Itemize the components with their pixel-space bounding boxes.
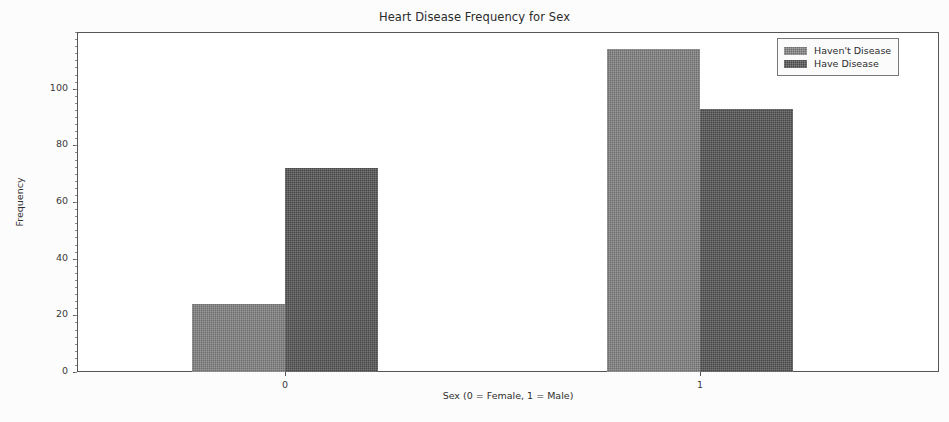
legend-swatch-havent-disease <box>784 47 807 55</box>
y-minor-tick <box>75 266 77 267</box>
y-minor-tick <box>75 245 77 246</box>
bar <box>192 304 285 372</box>
y-minor-tick <box>75 117 77 118</box>
y-minor-tick <box>75 209 77 210</box>
y-minor-tick <box>75 138 77 139</box>
y-minor-tick <box>75 358 77 359</box>
x-tick-mark <box>700 372 701 376</box>
y-minor-tick <box>75 315 77 316</box>
matplotlib-figure: Heart Disease Frequency for Sex 02040608… <box>0 0 949 422</box>
y-minor-tick <box>75 82 77 83</box>
y-minor-tick <box>75 337 77 338</box>
y-minor-tick <box>75 372 77 373</box>
x-axis-label: Sex (0 = Female, 1 = Male) <box>77 390 939 401</box>
y-minor-tick <box>75 202 77 203</box>
legend-item: Have Disease <box>784 57 891 70</box>
y-minor-tick <box>75 280 77 281</box>
y-minor-tick <box>75 145 77 146</box>
y-minor-tick <box>75 167 77 168</box>
legend-label-havent-disease: Haven't Disease <box>814 45 891 56</box>
y-minor-tick <box>75 216 77 217</box>
legend-label-have-disease: Have Disease <box>814 58 879 69</box>
y-minor-tick <box>75 273 77 274</box>
y-minor-tick <box>75 160 77 161</box>
y-tick-label: 0 <box>62 365 68 376</box>
y-tick-label: 40 <box>56 252 68 263</box>
y-minor-tick <box>75 131 77 132</box>
legend-item: Haven't Disease <box>784 44 891 57</box>
y-tick-label: 100 <box>50 82 68 93</box>
screenshot-root: Heart Disease Frequency for Sex 02040608… <box>0 0 949 422</box>
legend-swatch-have-disease <box>784 60 807 68</box>
x-tick-mark <box>285 372 286 376</box>
y-minor-tick <box>75 32 77 33</box>
y-minor-tick <box>75 294 77 295</box>
y-minor-tick <box>75 308 77 309</box>
x-tick-label: 0 <box>265 379 305 390</box>
y-minor-tick <box>75 330 77 331</box>
y-minor-tick <box>75 110 77 111</box>
y-minor-tick <box>75 301 77 302</box>
y-minor-tick <box>75 287 77 288</box>
y-minor-tick <box>75 188 77 189</box>
y-tick-label: 60 <box>56 195 68 206</box>
y-minor-tick <box>75 75 77 76</box>
y-minor-tick <box>75 237 77 238</box>
chart-legend: Haven't Disease Have Disease <box>777 38 899 76</box>
y-minor-tick <box>75 252 77 253</box>
y-minor-tick <box>75 181 77 182</box>
y-minor-tick <box>75 89 77 90</box>
y-minor-tick <box>75 39 77 40</box>
y-minor-tick <box>75 223 77 224</box>
y-minor-tick <box>75 60 77 61</box>
y-minor-tick <box>75 322 77 323</box>
chart-title: Heart Disease Frequency for Sex <box>0 10 949 24</box>
y-minor-tick <box>75 96 77 97</box>
x-tick-label: 1 <box>680 379 720 390</box>
y-minor-tick <box>75 53 77 54</box>
y-minor-tick <box>75 46 77 47</box>
y-minor-tick <box>75 195 77 196</box>
y-tick-label: 80 <box>56 138 68 149</box>
y-tick-label: 20 <box>56 308 68 319</box>
bar <box>700 109 793 373</box>
y-axis-label: Frequency <box>14 32 28 372</box>
y-minor-tick <box>75 351 77 352</box>
bar <box>285 168 378 372</box>
bar <box>607 49 700 372</box>
y-minor-tick <box>75 344 77 345</box>
plot-area: 02040608010001 <box>77 32 939 372</box>
y-minor-tick <box>75 230 77 231</box>
y-minor-tick <box>75 365 77 366</box>
y-minor-tick <box>75 259 77 260</box>
y-minor-tick <box>75 174 77 175</box>
y-minor-tick <box>75 67 77 68</box>
y-minor-tick <box>75 152 77 153</box>
y-minor-tick <box>75 124 77 125</box>
y-minor-tick <box>75 103 77 104</box>
